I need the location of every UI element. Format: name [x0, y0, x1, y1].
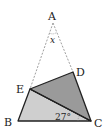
- geometry-diagram: A x D E B C 27°: [0, 0, 112, 135]
- label-b: B: [4, 116, 12, 129]
- label-x: x: [50, 35, 55, 45]
- label-d: D: [76, 66, 85, 79]
- label-e: E: [16, 83, 24, 96]
- angle-x-arc: [50, 33, 57, 34]
- label-angle-27: 27°: [55, 112, 71, 122]
- label-a: A: [47, 10, 57, 23]
- label-c: C: [94, 117, 102, 130]
- dashed-line-ae: [30, 23, 53, 89]
- dashed-line-ad: [53, 23, 73, 72]
